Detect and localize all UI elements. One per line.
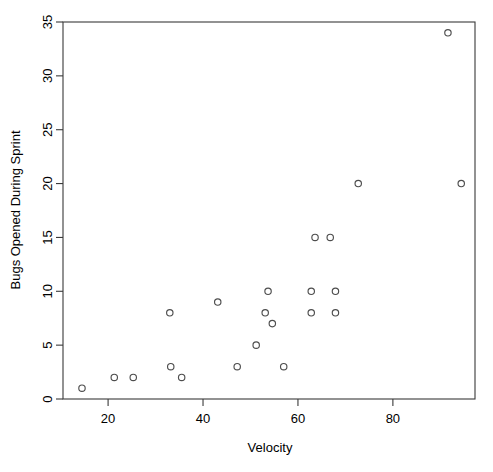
data-point-series	[79, 30, 465, 392]
data-point	[308, 310, 314, 316]
data-point	[355, 180, 361, 186]
y-tick-label-10: 10	[40, 284, 55, 298]
data-point	[308, 288, 314, 294]
y-tick-label-30: 30	[40, 69, 55, 83]
data-point	[332, 288, 338, 294]
y-tick-label-0: 0	[40, 395, 55, 402]
data-point	[262, 310, 268, 316]
data-point	[281, 363, 287, 369]
x-axis-tick-labels: 20406080	[101, 411, 400, 426]
data-point	[332, 310, 338, 316]
data-point	[79, 385, 85, 391]
x-tick-label-80: 80	[386, 411, 400, 426]
data-point	[168, 363, 174, 369]
x-tick-label-20: 20	[101, 411, 115, 426]
data-point	[215, 299, 221, 305]
data-point	[253, 342, 259, 348]
x-axis-ticks	[108, 399, 393, 406]
y-tick-label-20: 20	[40, 176, 55, 190]
data-point	[458, 180, 464, 186]
y-tick-label-35: 35	[40, 15, 55, 29]
data-point	[445, 30, 451, 36]
data-point	[312, 234, 318, 240]
plot-frame	[63, 22, 475, 399]
y-tick-label-25: 25	[40, 122, 55, 136]
data-point	[130, 374, 136, 380]
y-axis-title: Bugs Opened During Sprint	[8, 130, 23, 289]
data-point	[327, 234, 333, 240]
y-axis-tick-labels: 05101520253035	[40, 15, 55, 403]
x-axis-title: Velocity	[248, 440, 293, 455]
data-point	[111, 374, 117, 380]
data-point	[167, 310, 173, 316]
x-tick-label-40: 40	[196, 411, 210, 426]
plot-canvas: 20406080 05101520253035 Velocity Bugs Op…	[0, 0, 493, 472]
scatter-plot-figure: 20406080 05101520253035 Velocity Bugs Op…	[0, 0, 493, 472]
data-point	[234, 363, 240, 369]
data-point	[269, 320, 275, 326]
x-tick-label-60: 60	[291, 411, 305, 426]
data-point	[178, 374, 184, 380]
y-tick-label-15: 15	[40, 230, 55, 244]
y-tick-label-5: 5	[40, 342, 55, 349]
data-point	[265, 288, 271, 294]
y-axis-ticks	[56, 22, 63, 399]
